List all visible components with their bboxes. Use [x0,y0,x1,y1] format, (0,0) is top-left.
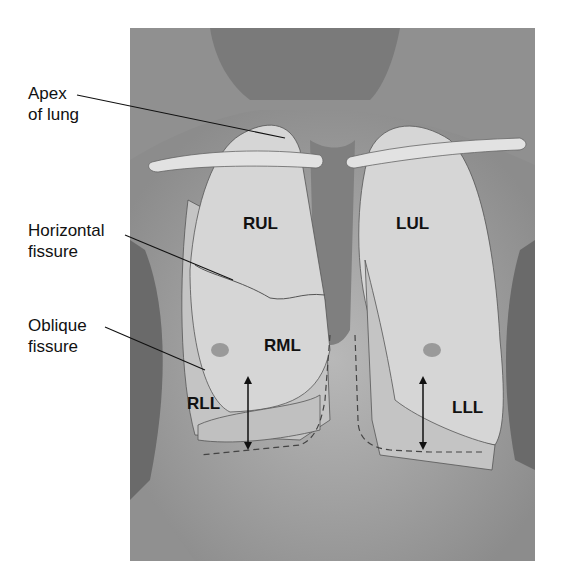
callout-label: fissure [28,241,105,262]
chest-illustration [0,0,567,582]
callout-label: Oblique [28,315,87,336]
callout-oblique-fissure: Oblique fissure [28,315,87,357]
callout-label: Horizontal [28,220,105,241]
lobe-label-rul: RUL [243,214,278,234]
callout-apex-of-lung: Apex of lung [28,83,79,125]
callout-label: Apex [28,83,79,104]
lobe-label-lll: LLL [452,398,483,418]
lobe-label-lul: LUL [396,214,429,234]
lobe-label-rll: RLL [187,394,220,414]
callout-label: of lung [28,104,79,125]
callout-label: fissure [28,336,87,357]
callout-horizontal-fissure: Horizontal fissure [28,220,105,262]
lobe-label-rml: RML [264,336,301,356]
